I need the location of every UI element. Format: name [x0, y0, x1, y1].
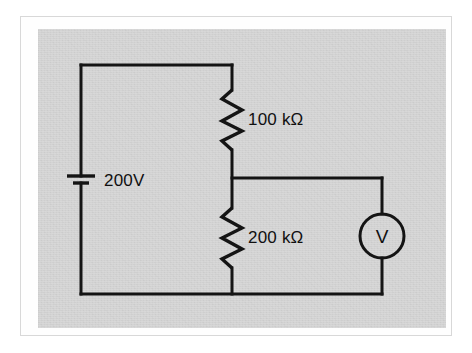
resistor-bottom-label: 200 kΩ — [248, 228, 304, 247]
resistor-bottom-symbol — [222, 208, 242, 268]
circuit-diagram: 200V 100 kΩ 200 kΩ V — [0, 0, 472, 353]
battery-symbol — [67, 176, 95, 183]
voltmeter-v-glyph: V — [376, 226, 389, 247]
battery-label: 200V — [104, 171, 145, 190]
resistor-top-symbol — [222, 90, 242, 150]
figure-root: 200V 100 kΩ 200 kΩ V — [0, 0, 472, 353]
resistor-top-label: 100 kΩ — [248, 110, 304, 129]
